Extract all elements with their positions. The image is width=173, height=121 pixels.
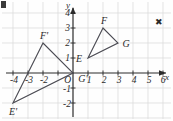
x-tick-5: 5 [147,75,152,85]
vertex-label-E-prime: E' [8,106,18,117]
y-axis-tick-labels: 4 3 2 1 -1 -2 [63,8,71,109]
x-tick-2: 2 [102,75,107,85]
x-axis-label: x [164,72,169,82]
grid-lines [2,2,171,119]
x-tick-3: 3 [116,75,122,85]
x-tick-4: 4 [132,75,137,85]
y-tick-1: 1 [65,53,70,63]
top-right-star-mark: ✖ [155,19,162,26]
y-tick-2: 2 [65,38,70,48]
y-tick--1: -1 [63,84,71,94]
vertex-label-F-prime: F' [39,30,49,41]
y-tick--2: -2 [63,99,71,109]
vertex-label-G-prime: G' [78,73,88,84]
vertex-label-F: F [100,15,108,26]
y-tick-3: 3 [64,23,70,33]
x-tick--2: -2 [40,75,48,85]
coordinate-plane-svg: -4 -3 -2 1 2 3 4 5 6 4 3 2 1 -1 -2 x y O… [0,0,173,121]
axes [6,8,166,117]
vertex-label-E: E [75,53,82,64]
x-tick--4: -4 [10,75,18,85]
figure-container: -4 -3 -2 1 2 3 4 5 6 4 3 2 1 -1 -2 x y O… [0,0,173,121]
y-axis-label: y [65,0,70,10]
x-axis-tick-labels: -4 -3 -2 1 2 3 4 5 6 [10,75,166,85]
vertex-label-G: G [122,38,129,49]
